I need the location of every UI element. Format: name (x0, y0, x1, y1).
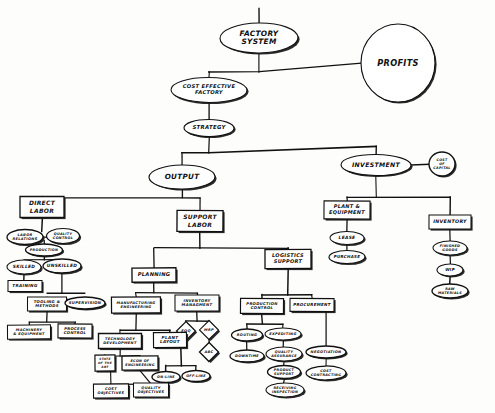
node-label: LEASE (339, 235, 356, 240)
node-econ_of_engineering[interactable]: ECON OFENGINEERING (122, 356, 160, 372)
node-label: TOOLING &METHODS (34, 299, 61, 308)
node-label: TRAINING (12, 283, 38, 288)
node-label: PURCHASE (334, 254, 361, 259)
connector (288, 269, 289, 295)
connector (42, 218, 43, 232)
node-off_line[interactable]: OFF-LINE (182, 370, 212, 383)
node-label: ON-LINE (157, 375, 175, 379)
node-product_support[interactable]: PRODUCTSUPPORT (267, 365, 302, 380)
node-label: DOWNTIME (235, 354, 259, 358)
node-direct_labor[interactable]: DIRECTLABOR (20, 196, 66, 219)
connector (154, 248, 288, 249)
node-factory_system[interactable]: FACTORYSYSTEM (220, 23, 300, 55)
node-inventory_mgmt[interactable]: INVENTORYMANAGMENT (175, 295, 221, 313)
node-label: SKILLED (13, 264, 36, 269)
node-plant_layout[interactable]: PLANTLAYOUT (153, 332, 188, 349)
factory-system-tree: FACTORYSYSTEMPROFITSCOST EFFECTIVEFACTOR… (0, 0, 495, 413)
node-label: MACHINERY& EQUIPMENT (13, 328, 45, 336)
node-label: QUALITYASSURANCE (270, 350, 297, 358)
node-logistics_support[interactable]: LOGISTICSSUPPORT (265, 249, 313, 270)
node-machinery_equipment[interactable]: MACHINERY& EQUIPMENT (7, 325, 52, 341)
node-label: QUALITYOBJECTIVES (138, 386, 165, 394)
node-mfg_engineering[interactable]: MANUFACTURINGENGINEERING (111, 297, 162, 315)
node-label: UNSKILLED (47, 263, 77, 268)
node-quality_assurance[interactable]: QUALITYASSURANCE (266, 347, 304, 363)
node-training[interactable]: TRAINING (8, 280, 44, 293)
node-production_dl[interactable]: PRODUCTION (25, 244, 64, 258)
node-routing[interactable]: ROUTING (231, 329, 264, 343)
node-label: LOGISTICSSUPPORT (272, 252, 304, 264)
connector (181, 348, 182, 366)
node-receiving_inspection[interactable]: RECEIVINGINSPECTION (266, 383, 306, 399)
node-abc[interactable]: ABC (199, 342, 220, 363)
node-plant_equipment[interactable]: PLANT &EQUIPMENT (324, 201, 372, 221)
connector (209, 63, 361, 72)
node-layer: FACTORYSYSTEMPROFITSCOST EFFECTIVEFACTOR… (7, 23, 473, 400)
node-procurement[interactable]: PROCUREMENT (290, 298, 336, 313)
node-inventory[interactable]: INVENTORY (429, 215, 473, 231)
connector (75, 322, 76, 323)
node-label: PROFITS (377, 58, 419, 68)
node-label: DIRECTLABOR (29, 199, 56, 213)
node-quality_control_dl[interactable]: QUALITYCONTROL (46, 228, 81, 245)
node-label: PLANTLAYOUT (160, 335, 181, 345)
node-unskilled[interactable]: UNSKILLED (43, 259, 83, 275)
node-cost_effective_factory[interactable]: COST EFFECTIVEFACTORY (171, 77, 249, 104)
node-raw_materials[interactable]: RAWMATERIALS (432, 284, 470, 300)
node-on_line[interactable]: ON-LINE (152, 371, 182, 384)
node-cost_of_capital[interactable]: COSTOFCAPITAL (429, 152, 457, 178)
node-label: WIP (445, 267, 455, 272)
node-label: TECHNOLOGYDEVELOPMENT (103, 337, 137, 345)
node-label: OUTPUT (165, 172, 200, 181)
node-label: MANUFACTURINGENGINEERING (117, 301, 156, 309)
node-lease[interactable]: LEASE (330, 231, 366, 246)
node-label: NEGOTIATION (311, 350, 342, 354)
node-output[interactable]: OUTPUT (149, 165, 217, 191)
node-cost_objectives[interactable]: COSTOBJECTIVES (93, 384, 130, 400)
node-label: STRATEGY (192, 124, 226, 130)
node-skilled[interactable]: SKILLED (7, 260, 43, 276)
node-technology_dev[interactable]: TECHNOLOGYDEVELOPMENT (98, 333, 143, 350)
node-label: EXPEDITING (269, 332, 296, 336)
node-planning[interactable]: PLANNING (132, 268, 178, 284)
node-wip[interactable]: WIP (437, 264, 465, 278)
node-label: MRP (204, 328, 214, 332)
node-profits[interactable]: PROFITS (361, 24, 437, 104)
node-finished_goods[interactable]: FINISHEDGOODS (433, 241, 469, 257)
node-process_control[interactable]: PROCESSCONTROL (58, 324, 94, 340)
node-label: ROUTING (237, 333, 258, 337)
node-mrp[interactable]: MRP (199, 320, 220, 341)
node-label: ABC (203, 350, 213, 354)
connector (262, 314, 263, 324)
node-label: INVENTORY (433, 219, 467, 224)
node-label: FINISHEDGOODS (440, 244, 461, 252)
node-cost_contracting[interactable]: COSTCONTRACTING (306, 366, 348, 382)
node-purchase[interactable]: PURCHASE (329, 250, 367, 265)
node-tooling_methods[interactable]: TOOLING &METHODS (27, 297, 68, 313)
node-label: RECEIVINGINSPECTION (272, 386, 298, 394)
node-label: PLANNING (138, 271, 171, 277)
node-label: PROCESSCONTROL (64, 326, 87, 335)
connector (182, 146, 376, 152)
node-negotiation[interactable]: NEGOTIATION (306, 346, 348, 360)
node-label: QUALITYCONTROL (53, 232, 73, 240)
connector (411, 164, 430, 165)
node-strategy[interactable]: STRATEGY (184, 119, 236, 138)
node-label: PLANT &EQUIPMENT (329, 203, 365, 215)
node-label: INVESTMENT (352, 161, 400, 168)
node-label: PROCUREMENT (293, 302, 331, 307)
node-label: INVENTORYMANAGMENT (182, 298, 213, 307)
node-downtime[interactable]: DOWNTIME (230, 350, 266, 364)
node-support_labor[interactable]: SUPPORTLABOR (177, 210, 225, 233)
node-quality_objectives[interactable]: QUALITYOBJECTIVES (133, 383, 170, 399)
node-label: PRODUCTION (30, 248, 58, 252)
node-label: SUPERVISION (69, 300, 102, 305)
diagram-canvas: FACTORYSYSTEMPROFITSCOST EFFECTIVEFACTOR… (0, 0, 495, 413)
node-expediting[interactable]: EXPEDITING (265, 328, 303, 342)
node-state_of_the_art[interactable]: STATEOF THEART (95, 355, 117, 373)
node-investment[interactable]: INVESTMENT (341, 154, 413, 177)
connector (140, 370, 151, 384)
node-production_control[interactable]: PRODUCTIONCONTROL (240, 298, 285, 315)
node-label: OFF-LINE (186, 374, 206, 378)
node-supervision[interactable]: SUPERVISION (65, 297, 107, 311)
